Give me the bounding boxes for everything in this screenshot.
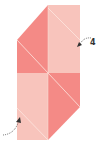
left-upper-dark-panel [17, 5, 48, 73]
left-lower-light-panel [17, 73, 48, 140]
right-lower-dark-panel [48, 73, 80, 140]
right-upper-light-panel [48, 5, 80, 73]
fold-arrow-icon [3, 123, 18, 135]
origami-diagram [0, 0, 98, 141]
step-number-label: 4 [90, 39, 96, 47]
